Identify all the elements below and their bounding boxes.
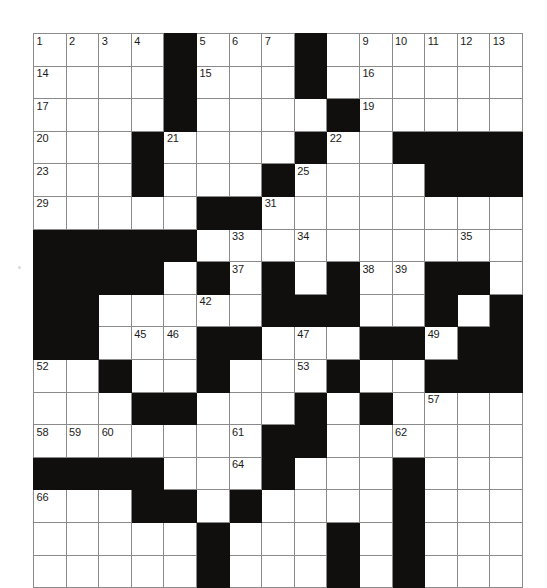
grid-cell[interactable] [99,392,132,425]
grid-cell[interactable] [359,359,392,392]
grid-cell[interactable] [262,555,295,588]
grid-cell[interactable] [99,66,132,99]
grid-cell[interactable]: 47 [294,327,327,360]
grid-cell[interactable] [164,196,197,229]
grid-cell[interactable] [164,457,197,490]
grid-cell[interactable] [392,164,425,197]
grid-cell[interactable] [327,229,360,262]
grid-cell[interactable] [99,99,132,132]
grid-cell[interactable] [359,294,392,327]
grid-cell[interactable] [164,359,197,392]
grid-cell[interactable] [229,359,262,392]
grid-cell[interactable]: 31 [262,196,295,229]
grid-cell[interactable] [164,425,197,458]
grid-cell[interactable] [229,131,262,164]
grid-cell[interactable] [196,490,229,523]
grid-cell[interactable] [392,359,425,392]
grid-cell[interactable]: 35 [457,229,490,262]
grid-cell[interactable] [392,66,425,99]
grid-cell[interactable] [262,327,295,360]
grid-cell[interactable] [327,66,360,99]
grid-cell[interactable] [490,196,523,229]
grid-cell[interactable]: 1 [34,34,67,67]
grid-cell[interactable] [66,99,99,132]
grid-cell[interactable] [425,229,458,262]
grid-cell[interactable] [131,66,164,99]
grid-cell[interactable]: 62 [392,425,425,458]
grid-cell[interactable] [490,99,523,132]
grid-cell[interactable] [457,522,490,555]
grid-cell[interactable] [131,359,164,392]
grid-cell[interactable] [262,99,295,132]
grid-cell[interactable] [327,327,360,360]
grid-cell[interactable] [262,490,295,523]
grid-cell[interactable] [34,555,67,588]
grid-cell[interactable] [490,522,523,555]
grid-cell[interactable]: 22 [327,131,360,164]
grid-cell[interactable] [196,164,229,197]
grid-cell[interactable]: 5 [196,34,229,67]
grid-cell[interactable] [490,425,523,458]
grid-cell[interactable] [490,555,523,588]
grid-cell[interactable] [359,555,392,588]
grid-cell[interactable] [164,555,197,588]
grid-cell[interactable] [196,425,229,458]
grid-cell[interactable] [425,555,458,588]
grid-cell[interactable] [294,522,327,555]
grid-cell[interactable]: 52 [34,359,67,392]
grid-cell[interactable] [262,66,295,99]
grid-cell[interactable] [457,99,490,132]
grid-cell[interactable] [457,294,490,327]
grid-cell[interactable] [327,490,360,523]
grid-cell[interactable]: 49 [425,327,458,360]
grid-cell[interactable] [457,490,490,523]
grid-cell[interactable] [99,131,132,164]
grid-cell[interactable] [66,490,99,523]
grid-cell[interactable] [34,392,67,425]
grid-cell[interactable] [392,294,425,327]
grid-cell[interactable]: 61 [229,425,262,458]
grid-cell[interactable] [294,457,327,490]
grid-cell[interactable]: 25 [294,164,327,197]
grid-cell[interactable] [131,425,164,458]
grid-cell[interactable] [425,490,458,523]
grid-cell[interactable]: 13 [490,34,523,67]
grid-cell[interactable] [425,99,458,132]
grid-cell[interactable] [457,66,490,99]
grid-cell[interactable] [327,196,360,229]
grid-cell[interactable]: 19 [359,99,392,132]
grid-cell[interactable] [490,229,523,262]
grid-cell[interactable] [99,490,132,523]
grid-cell[interactable]: 21 [164,131,197,164]
grid-cell[interactable] [262,522,295,555]
grid-cell[interactable]: 57 [425,392,458,425]
grid-cell[interactable] [99,164,132,197]
grid-cell[interactable]: 33 [229,229,262,262]
grid-cell[interactable] [392,196,425,229]
grid-cell[interactable]: 2 [66,34,99,67]
grid-cell[interactable]: 45 [131,327,164,360]
grid-cell[interactable]: 53 [294,359,327,392]
grid-cell[interactable] [294,555,327,588]
grid-cell[interactable] [66,131,99,164]
grid-cell[interactable] [196,392,229,425]
grid-cell[interactable] [66,359,99,392]
grid-cell[interactable] [66,522,99,555]
grid-cell[interactable] [457,425,490,458]
grid-cell[interactable]: 39 [392,262,425,295]
grid-cell[interactable] [359,229,392,262]
grid-cell[interactable] [131,294,164,327]
grid-cell[interactable] [327,164,360,197]
grid-cell[interactable] [457,555,490,588]
grid-cell[interactable] [490,490,523,523]
grid-cell[interactable]: 16 [359,66,392,99]
grid-cell[interactable] [294,262,327,295]
grid-cell[interactable]: 11 [425,34,458,67]
grid-cell[interactable] [359,131,392,164]
grid-cell[interactable]: 3 [99,34,132,67]
grid-cell[interactable] [359,522,392,555]
grid-cell[interactable] [131,555,164,588]
grid-cell[interactable] [131,196,164,229]
grid-cell[interactable] [131,522,164,555]
grid-cell[interactable]: 42 [196,294,229,327]
